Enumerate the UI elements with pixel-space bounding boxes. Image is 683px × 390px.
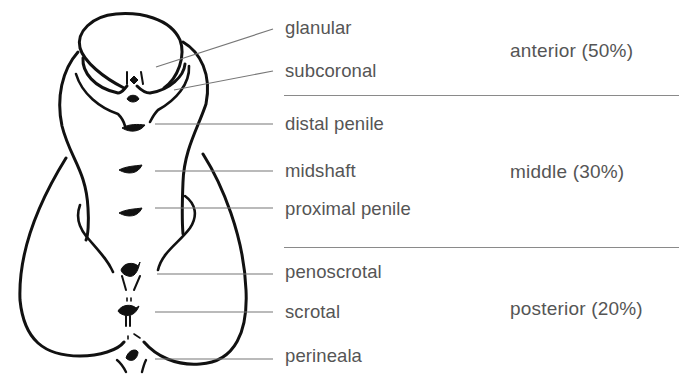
leader-glanular — [156, 29, 273, 67]
coronal-left-curve — [76, 74, 125, 126]
meatus-dot-perineal — [126, 350, 138, 360]
region-middle: middle (30%) — [510, 160, 624, 184]
scrotum-left-outline — [20, 158, 124, 356]
meatus-dot-penoscrotal — [121, 262, 140, 276]
glans-outline — [79, 14, 182, 88]
divider-middle-posterior — [284, 247, 679, 248]
label-subcoronal: subcoronal — [285, 60, 377, 82]
region-anterior: anterior (50%) — [510, 39, 633, 63]
label-distal-penile: distal penile — [285, 113, 384, 135]
shaft-left-outline — [60, 52, 89, 240]
perineal-mark-right — [142, 360, 146, 372]
raphe-mark-2 — [134, 276, 140, 290]
label-penoscrotal: penoscrotal — [285, 261, 382, 283]
region-posterior: posterior (20%) — [510, 297, 643, 321]
perineal-mark-left — [117, 360, 126, 372]
meatus-dot-glanular — [130, 76, 138, 84]
shaft-right-outline — [182, 42, 207, 234]
inner-fold-left — [78, 205, 113, 272]
coronal-right-curve — [150, 66, 189, 122]
raphe-mark-4 — [126, 316, 130, 326]
label-midshaft: midshaft — [285, 160, 356, 182]
meatus-dot-midshaft — [119, 165, 142, 173]
scrotum-right-outline — [144, 154, 246, 364]
label-scrotal: scrotal — [285, 301, 340, 323]
anatomy-drawing — [20, 14, 246, 372]
raphe-mark-1 — [122, 276, 126, 290]
meatus-right-tick — [141, 72, 143, 84]
label-perineala: perineala — [285, 345, 362, 367]
raphe-mark-3 — [127, 298, 131, 301]
raphe-mark-5 — [128, 334, 140, 339]
label-proximal-penile: proximal penile — [285, 198, 411, 220]
meatus-dot-subcoronal — [127, 95, 139, 102]
meatus-dot-scrotal — [118, 305, 139, 315]
inner-fold-right — [158, 196, 195, 270]
meatus-dot-proximal — [119, 208, 142, 216]
label-glanular: glanular — [285, 17, 352, 39]
divider-anterior-middle — [284, 95, 679, 96]
